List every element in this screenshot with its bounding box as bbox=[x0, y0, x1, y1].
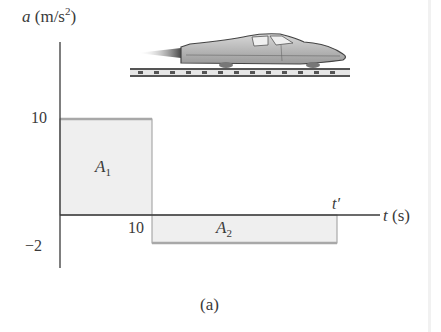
acceleration-time-plot bbox=[0, 0, 441, 332]
figure-caption: (a) bbox=[200, 296, 219, 313]
a1-sub: 1 bbox=[105, 166, 111, 178]
x-axis-var: t bbox=[383, 206, 388, 225]
region-a2-label: A2 bbox=[216, 219, 232, 239]
y-tick-neg2: −2 bbox=[25, 238, 42, 254]
x-axis-label: t (s) bbox=[383, 207, 410, 224]
a1-name: A bbox=[95, 157, 105, 176]
x-tick-10: 10 bbox=[128, 220, 144, 236]
x-axis-unit: (s) bbox=[392, 206, 410, 225]
region-a2 bbox=[152, 215, 337, 243]
region-a1-label: A1 bbox=[95, 158, 111, 178]
a2-sub: 2 bbox=[226, 227, 232, 239]
a2-name: A bbox=[216, 218, 226, 237]
rocket-car-illustration bbox=[130, 34, 350, 77]
y-tick-10: 10 bbox=[31, 110, 47, 126]
x-tick-t-prime: t′ bbox=[332, 196, 340, 212]
t-prime-mark: ′ bbox=[336, 195, 340, 212]
